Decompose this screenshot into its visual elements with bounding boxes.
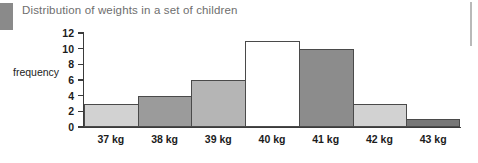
y-axis-tick-label: 2 (68, 105, 74, 117)
histogram-figure: Distribution of weights in a set of chil… (0, 0, 478, 163)
x-axis-tick-label: 37 kg (84, 133, 138, 145)
y-axis-title: frequency (13, 66, 59, 78)
y-axis-tick-label: 6 (68, 74, 74, 86)
y-axis-tick-label: 8 (68, 58, 74, 70)
histogram-bar (299, 49, 354, 127)
y-axis-tick-label: 4 (68, 90, 74, 102)
chart-title: Distribution of weights in a set of chil… (22, 4, 238, 16)
histogram-bar (84, 104, 139, 128)
x-axis-tick-label: 38 kg (138, 133, 192, 145)
x-axis-tick-label: 43 kg (406, 133, 460, 145)
x-axis-line (83, 127, 461, 128)
y-axis-tick-label: 0 (68, 121, 74, 133)
x-axis-tick-label: 40 kg (245, 133, 299, 145)
histogram-bar (406, 119, 460, 127)
histogram-bar (245, 41, 300, 127)
histogram-bar (353, 104, 408, 128)
x-axis-tick-label: 42 kg (353, 133, 407, 145)
x-axis-tick-label: 39 kg (191, 133, 245, 145)
histogram-bar (191, 80, 246, 127)
y-axis-tick-label: 10 (62, 43, 74, 55)
plot-area (84, 33, 460, 127)
x-axis-tick-label: 41 kg (299, 133, 353, 145)
margin-decoration-block (0, 3, 13, 30)
y-axis-tick-label: 12 (62, 27, 74, 39)
right-margin-rule (470, 2, 472, 46)
histogram-bar (138, 96, 193, 127)
